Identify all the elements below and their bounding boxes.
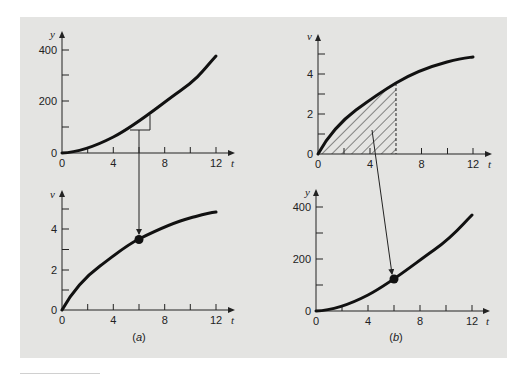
y-tick-label: 4: [51, 223, 57, 235]
x-tick-label: 12: [210, 314, 222, 326]
y-tick-label: 200: [293, 253, 311, 265]
x-tick-label: 8: [162, 157, 168, 169]
x-tick-label: 0: [313, 315, 319, 327]
x-tick-label: 4: [110, 157, 116, 169]
x-tick-label: 4: [365, 315, 371, 327]
y-tick-label: 400: [293, 201, 311, 213]
x-tick-label: 0: [59, 157, 65, 169]
y-tick-label: 0: [51, 147, 57, 159]
panel-b-caption: (b): [389, 331, 402, 343]
y-tick-label: 0: [305, 305, 311, 317]
velocity-point-marker: [135, 235, 144, 244]
x-tick-label: 0: [59, 314, 65, 326]
x-tick-label: 12: [467, 158, 479, 170]
x-tick-label: 4: [110, 314, 116, 326]
x-tick-label: 12: [466, 315, 478, 327]
y-axis-label: v: [307, 30, 312, 42]
caption-rule: [20, 373, 100, 374]
y-tick-label: 0: [51, 304, 57, 316]
y-axis-label: v: [50, 188, 55, 200]
y-tick-label: 0: [307, 148, 313, 160]
y-tick-label: 2: [307, 108, 313, 120]
x-tick-label: 4: [367, 158, 373, 170]
y-tick-label: 400: [39, 44, 57, 56]
y-axis-label: y: [49, 28, 55, 40]
x-tick-label: 0: [315, 158, 321, 170]
x-tick-label: 12: [210, 157, 222, 169]
figure-background: [20, 17, 507, 358]
y-tick-label: 4: [307, 68, 313, 80]
position-point-marker: [390, 275, 399, 284]
x-tick-label: 8: [418, 158, 424, 170]
y-tick-label: 200: [39, 95, 57, 107]
figure: 0 200 400 0 4 8 12 y t: [0, 0, 524, 376]
panel-a-caption: (a): [132, 331, 145, 343]
x-tick-label: 8: [417, 315, 423, 327]
y-tick-label: 2: [51, 264, 57, 276]
x-tick-label: 8: [162, 314, 168, 326]
y-axis-label: y: [304, 186, 310, 198]
